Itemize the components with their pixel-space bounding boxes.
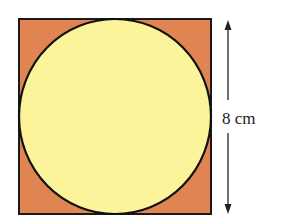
arrow-down-icon — [225, 204, 232, 214]
arrow-up-icon — [225, 20, 232, 30]
dimension-label: 8 cm — [222, 109, 256, 128]
diagram-canvas: 8 cm — [0, 0, 284, 224]
inscribed-circle — [19, 19, 211, 214]
